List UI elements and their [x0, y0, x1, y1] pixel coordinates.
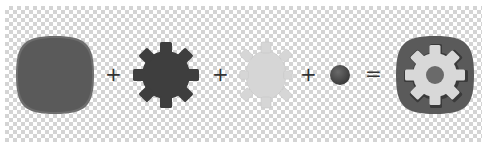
plus-operator-3: + — [300, 64, 316, 84]
equals-operator: = — [365, 63, 381, 83]
plus-operator-2: + — [212, 64, 228, 84]
settings-icon-result — [394, 34, 476, 116]
center-dot-icon — [329, 64, 351, 86]
light-gear-icon — [236, 41, 296, 109]
plus-operator-1: + — [105, 64, 121, 84]
dark-gear-icon — [132, 41, 200, 109]
squircle-base-icon — [14, 34, 96, 116]
